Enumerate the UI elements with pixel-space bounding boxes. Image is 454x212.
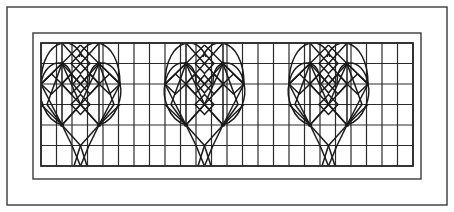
pattern-figure xyxy=(0,0,454,212)
pattern-canvas xyxy=(0,0,454,212)
